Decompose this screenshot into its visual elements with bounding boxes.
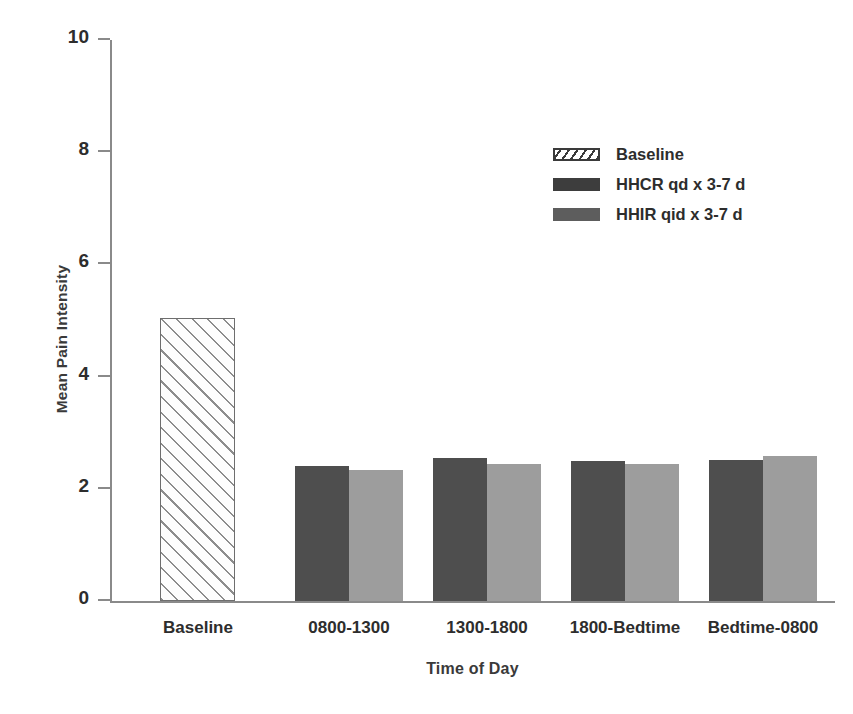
- legend-item: HHCR qd x 3-7 d: [553, 169, 745, 199]
- legend-label: Baseline: [616, 145, 684, 164]
- y-tick-label: 6: [78, 251, 89, 271]
- y-tick-label: 10: [68, 27, 89, 47]
- x-axis-line: [110, 601, 835, 603]
- bar: [763, 456, 817, 601]
- y-tick: 8: [98, 150, 110, 152]
- x-tick-label: Bedtime-0800: [663, 618, 853, 638]
- y-axis-title: Mean Pain Intensity: [53, 189, 71, 489]
- x-axis-title: Time of Day: [110, 660, 835, 678]
- bar: [295, 466, 349, 601]
- y-tick: 10: [98, 38, 110, 40]
- legend-label: HHCR qd x 3-7 d: [616, 175, 745, 194]
- bar: [487, 464, 541, 601]
- y-tick-label: 4: [78, 364, 89, 384]
- legend-swatch-icon: [553, 148, 600, 161]
- chart-legend: BaselineHHCR qd x 3-7 dHHIR qid x 3-7 d: [553, 139, 745, 229]
- y-tick: 0: [98, 599, 110, 601]
- y-tick: 6: [98, 262, 110, 264]
- bar: [160, 318, 235, 601]
- legend-swatch-icon: [553, 178, 600, 191]
- y-tick-label: 8: [78, 139, 89, 159]
- y-tick-label: 2: [78, 476, 89, 496]
- bar: [433, 458, 487, 601]
- legend-label: HHIR qid x 3-7 d: [616, 205, 743, 224]
- legend-item: Baseline: [553, 139, 745, 169]
- bar: [571, 461, 625, 601]
- figure-bar-chart: Mean Pain Intensity 0246810 Baseline0800…: [0, 0, 853, 714]
- y-axis-line: [110, 40, 112, 603]
- y-tick-label: 0: [78, 588, 89, 608]
- legend-swatch-icon: [553, 208, 600, 221]
- bar: [709, 460, 763, 601]
- bar: [625, 464, 679, 601]
- plot-area: 0246810 Baseline0800-13001300-18001800-B…: [110, 40, 835, 602]
- bar: [349, 470, 403, 601]
- legend-item: HHIR qid x 3-7 d: [553, 199, 745, 229]
- y-tick: 4: [98, 375, 110, 377]
- y-tick: 2: [98, 487, 110, 489]
